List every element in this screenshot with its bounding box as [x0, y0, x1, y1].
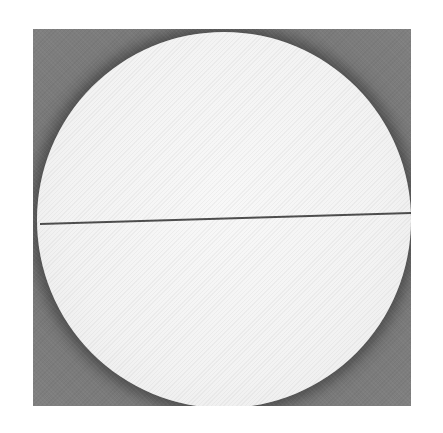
photo-background-square — [33, 29, 411, 406]
